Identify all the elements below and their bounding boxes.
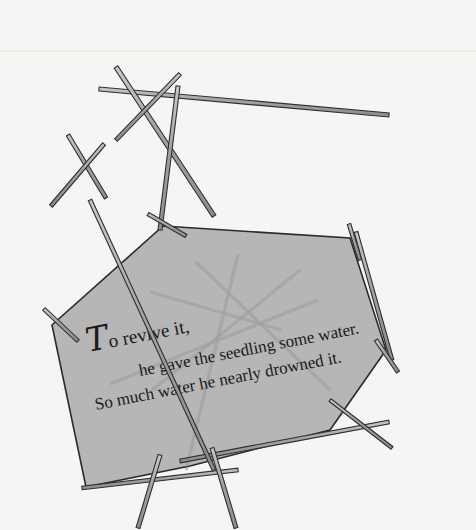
illustration-svg: To revive it, he gave the seedling some … xyxy=(0,0,476,530)
illustration-canvas: To revive it, he gave the seedling some … xyxy=(0,0,476,530)
